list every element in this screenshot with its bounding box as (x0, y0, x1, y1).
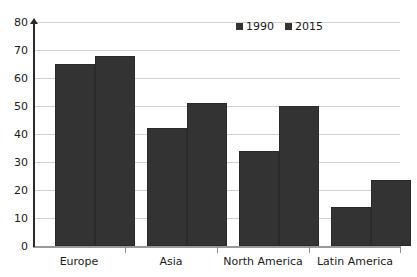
legend-swatch-2015-icon (285, 23, 292, 30)
y-tick-0: 0 (21, 241, 28, 252)
bar-north-america-1990 (239, 151, 279, 246)
x-label-latin-america: Latin America (317, 256, 393, 268)
bar-europe-2015 (95, 56, 135, 246)
gridline-70 (33, 50, 400, 51)
gridline-80 (33, 22, 400, 23)
y-tick-60: 60 (14, 73, 28, 84)
x-tick-separator-4 (400, 246, 401, 253)
y-axis-line (33, 22, 35, 247)
y-tick-10: 10 (14, 213, 28, 224)
bar-latin-america-1990 (331, 207, 371, 246)
y-tick-30: 30 (14, 157, 28, 168)
y-tick-50: 50 (14, 101, 28, 112)
legend-item-2015: 2015 (285, 21, 323, 32)
legend-label-1990: 1990 (246, 21, 274, 32)
legend-item-1990: 1990 (236, 21, 274, 32)
x-label-north-america: North America (223, 256, 303, 268)
legend-swatch-1990-icon (236, 23, 243, 30)
bar-europe-1990 (55, 64, 95, 246)
x-label-asia: Asia (159, 256, 182, 268)
y-axis-tick-labels: 80 70 60 50 40 30 20 10 0 (0, 0, 28, 277)
y-tick-40: 40 (14, 129, 28, 140)
bar-chart: 80 70 60 50 40 30 20 10 0 Europe Asia No… (0, 0, 417, 277)
bar-latin-america-2015 (371, 180, 411, 246)
y-tick-20: 20 (14, 185, 28, 196)
plot-area (33, 22, 400, 246)
y-tick-80: 80 (14, 17, 28, 28)
bar-asia-2015 (187, 103, 227, 246)
y-tick-70: 70 (14, 45, 28, 56)
x-label-europe: Europe (60, 256, 99, 268)
bar-asia-1990 (147, 128, 187, 246)
x-tick-separator-1 (125, 246, 126, 253)
x-tick-separator-2 (217, 246, 218, 253)
legend-label-2015: 2015 (295, 21, 323, 32)
y-axis-arrow-icon (30, 18, 38, 24)
chart-legend: 1990 2015 (236, 21, 323, 32)
bar-north-america-2015 (279, 106, 319, 246)
x-tick-separator-3 (309, 246, 310, 253)
